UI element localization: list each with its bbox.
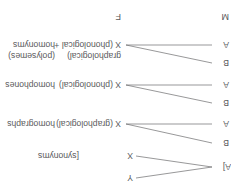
link-homonyms-from-b bbox=[126, 45, 212, 63]
rotated-diagram-canvas: A] Y X [synonyms B A X (graphological) h… bbox=[0, 0, 239, 185]
meaning-label-synonyms-a: A] bbox=[223, 162, 231, 172]
form-label-synonyms-y: Y bbox=[127, 173, 133, 183]
relation-label-homophones: homophones bbox=[5, 80, 55, 90]
meaning-label-homonyms-b: B bbox=[223, 58, 229, 68]
link-synonyms-to-y bbox=[136, 167, 212, 178]
form-label-homonyms-line1: X (phonological + bbox=[54, 40, 121, 50]
column-header-form: F bbox=[116, 12, 122, 22]
linguistic-relations-diagram: A] Y X [synonyms B A X (graphological) h… bbox=[0, 0, 239, 185]
link-synonyms-to-x bbox=[136, 156, 212, 167]
form-label-homophones: X (phonological) bbox=[59, 80, 121, 90]
link-homographs-from-b bbox=[126, 124, 212, 143]
form-label-homonyms-line2: graphological) bbox=[67, 51, 121, 61]
meaning-label-homographs-b: B bbox=[223, 138, 229, 148]
meaning-label-homographs-a: A bbox=[223, 119, 229, 129]
form-label-synonyms-x: X bbox=[127, 151, 133, 161]
form-label-homographs: X (graphological) bbox=[56, 119, 121, 129]
meaning-label-homophones-a: A bbox=[223, 80, 229, 90]
relation-label-homonyms-polysemes: (polysemes) bbox=[8, 51, 55, 61]
meaning-label-homophones-b: B bbox=[223, 98, 229, 108]
link-homophones-from-b bbox=[126, 85, 212, 103]
relation-label-synonyms: [synonyms bbox=[38, 151, 79, 161]
relation-label-homographs: homographs bbox=[7, 119, 55, 129]
column-header-meaning: M bbox=[222, 12, 230, 22]
relation-links bbox=[0, 0, 239, 185]
meaning-label-homonyms-a: A bbox=[223, 40, 229, 50]
relation-label-homonyms: homonyms bbox=[13, 40, 55, 50]
